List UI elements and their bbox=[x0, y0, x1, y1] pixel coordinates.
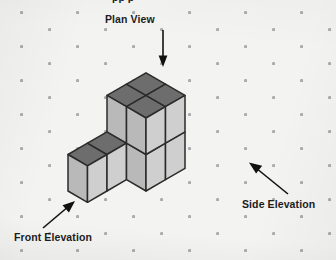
isometric-cube-illustration bbox=[0, 0, 336, 260]
front-elevation-label: Front Elevation bbox=[14, 232, 92, 243]
front-elevation-arrow bbox=[43, 201, 75, 228]
plan-view-label: Plan View bbox=[105, 14, 155, 25]
side-elevation-arrow bbox=[249, 163, 288, 195]
figure-canvas: pp p Plan View Front Elevation Side Elev… bbox=[0, 0, 336, 260]
cube-stack bbox=[68, 73, 185, 203]
side-elevation-label: Side Elevation bbox=[242, 199, 315, 210]
plan-view-arrow bbox=[159, 30, 168, 67]
cube bbox=[68, 143, 107, 202]
cube bbox=[127, 95, 166, 154]
